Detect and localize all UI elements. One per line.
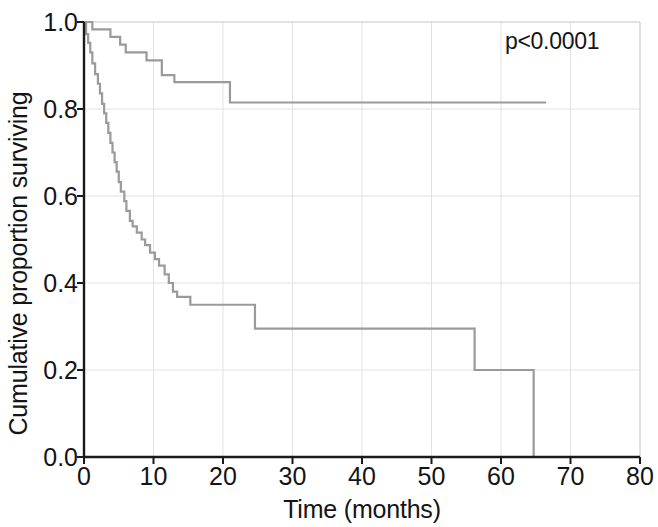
y-tick-label: 0.6 xyxy=(18,182,78,211)
p-value-annotation: p<0.0001 xyxy=(505,28,599,55)
y-tick-label: 1.0 xyxy=(18,8,78,37)
x-tick-label: 40 xyxy=(332,462,392,491)
x-tick-label: 60 xyxy=(471,462,531,491)
x-tick-label: 0 xyxy=(54,462,114,491)
survival-chart xyxy=(0,0,658,527)
x-tick-label: 10 xyxy=(124,462,184,491)
x-tick-label: 80 xyxy=(610,462,658,491)
x-axis-label: Time (months) xyxy=(84,495,640,524)
x-tick-label: 70 xyxy=(541,462,601,491)
x-tick-label: 20 xyxy=(193,462,253,491)
y-tick-label: 0.2 xyxy=(18,356,78,385)
y-tick-label: 0.4 xyxy=(18,269,78,298)
x-tick-label: 50 xyxy=(402,462,462,491)
y-axis-tick-labels: 0.00.20.40.60.81.0 xyxy=(14,0,78,527)
y-tick-label: 0.8 xyxy=(18,95,78,124)
x-tick-label: 30 xyxy=(263,462,323,491)
